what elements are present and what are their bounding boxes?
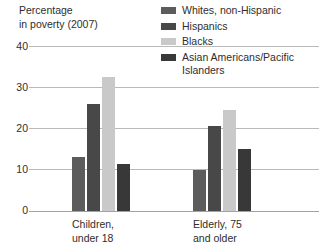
- legend-swatch-icon-whites: [161, 7, 176, 14]
- group-label-elderly-line-1: Elderly, 75: [193, 218, 242, 230]
- group-label-children: Children,under 18: [72, 218, 114, 245]
- bar: [102, 77, 115, 211]
- bar: [87, 104, 100, 211]
- legend-swatch-icon-asian-pacific: [161, 54, 176, 61]
- legend-swatch-icon-hispanics: [161, 23, 176, 30]
- legend-item-hispanics: Hispanics: [161, 20, 328, 34]
- group-label-children-line-1: Children,: [72, 218, 114, 230]
- bar: [72, 157, 85, 211]
- legend-swatch-icon-blacks: [161, 38, 176, 45]
- bar: [193, 170, 206, 211]
- bar: [223, 110, 236, 211]
- legend-label-blacks: Blacks: [182, 35, 213, 49]
- legend-item-asian-pacific: Asian Americans/Pacific Islanders: [161, 51, 328, 78]
- bar: [117, 164, 130, 211]
- poverty-bar-chart: Percentagein poverty (2007) 40 30 20 10 …: [0, 0, 328, 249]
- chart-legend: Whites, non-Hispanic Hispanics Blacks As…: [161, 4, 328, 80]
- group-label-elderly: Elderly, 75and older: [193, 218, 242, 245]
- legend-item-whites: Whites, non-Hispanic: [161, 4, 328, 18]
- legend-label-asian-pacific: Asian Americans/Pacific Islanders: [182, 51, 294, 78]
- legend-label-whites: Whites, non-Hispanic: [182, 4, 281, 18]
- group-label-children-line-2: under 18: [72, 232, 113, 244]
- bar: [208, 126, 221, 211]
- bar: [238, 149, 251, 211]
- legend-label-hispanics: Hispanics: [182, 20, 228, 34]
- group-label-elderly-line-2: and older: [193, 232, 237, 244]
- legend-item-blacks: Blacks: [161, 35, 328, 49]
